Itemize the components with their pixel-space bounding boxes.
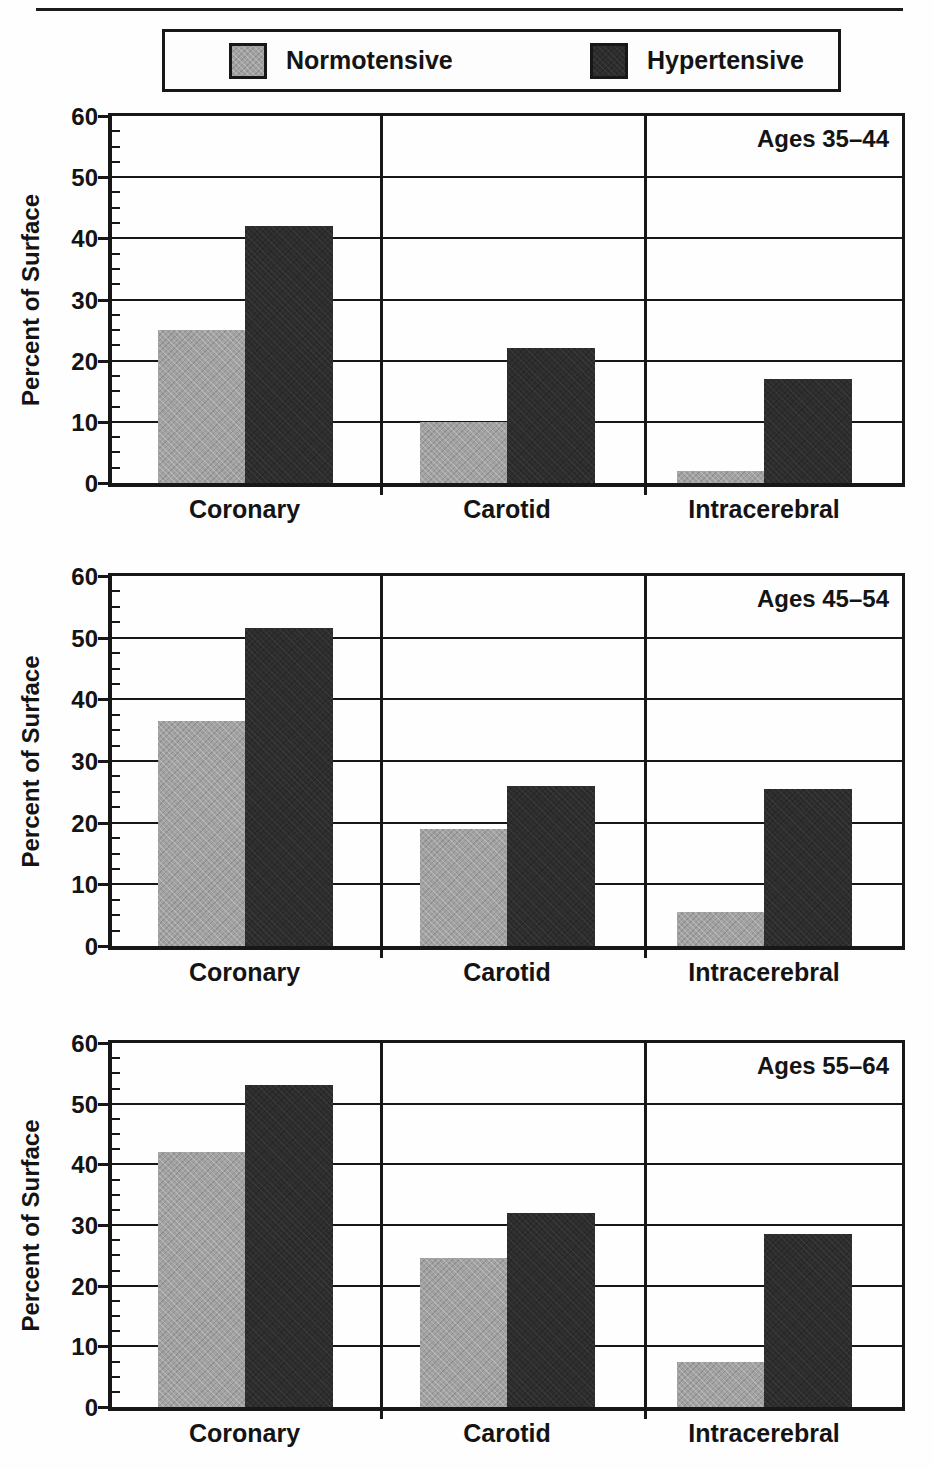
bar-normotensive-intracerebral: [677, 912, 764, 946]
bar-normotensive-carotid: [420, 1258, 507, 1407]
y-minor-tick: [112, 390, 120, 392]
y-tick-label-20: 20: [34, 811, 98, 837]
y-minor-tick: [112, 451, 120, 453]
bar-normotensive-intracerebral: [677, 1362, 764, 1408]
y-tick-label-0: 0: [34, 1395, 98, 1421]
y-minor-tick: [112, 436, 120, 438]
panel-divider-foot-2: [644, 1411, 647, 1419]
chart-ages-45-54: Percent of SurfaceAges 45–54010203040506…: [0, 573, 933, 1010]
y-tick-30: [98, 1224, 108, 1227]
y-minor-tick: [112, 268, 120, 270]
y-tick-label-60: 60: [34, 1031, 98, 1057]
y-tick-50: [98, 176, 108, 179]
y-minor-tick: [112, 683, 120, 685]
bar-hypertensive-coronary: [245, 628, 333, 946]
category-label-intracerebral: Intracerebral: [634, 1419, 894, 1448]
y-tick-label-50: 50: [34, 626, 98, 652]
y-minor-tick: [112, 130, 120, 132]
y-tick-20: [98, 822, 108, 825]
y-minor-tick: [112, 253, 120, 255]
y-tick-50: [98, 637, 108, 640]
plot-area: Ages 35–44: [108, 113, 905, 487]
legend-label-normotensive: Normotensive: [286, 46, 453, 75]
panel-divider-2: [644, 576, 647, 946]
y-minor-tick: [112, 837, 120, 839]
y-tick-label-10: 10: [34, 410, 98, 436]
hypertensive-swatch: [590, 43, 628, 79]
y-minor-tick: [112, 930, 120, 932]
bar-hypertensive-coronary: [245, 1085, 333, 1407]
y-minor-tick: [112, 161, 120, 163]
category-label-carotid: Carotid: [377, 1419, 637, 1448]
y-minor-tick: [112, 853, 120, 855]
y-minor-tick: [112, 714, 120, 716]
y-minor-tick: [112, 146, 120, 148]
y-tick-10: [98, 421, 108, 424]
y-tick-40: [98, 698, 108, 701]
normotensive-swatch: [229, 43, 267, 79]
bar-hypertensive-carotid: [507, 348, 595, 483]
y-minor-tick: [112, 1133, 120, 1135]
y-minor-tick: [112, 1300, 120, 1302]
y-minor-tick: [112, 283, 120, 285]
panel-divider-foot-2: [644, 487, 647, 495]
panel-divider-foot-2: [644, 950, 647, 958]
y-minor-tick: [112, 1330, 120, 1332]
category-label-coronary: Coronary: [115, 1419, 375, 1448]
panel-divider-foot-1: [380, 1411, 383, 1419]
category-label-intracerebral: Intracerebral: [634, 495, 894, 524]
y-minor-tick: [112, 606, 120, 608]
bar-normotensive-coronary: [158, 721, 245, 946]
y-minor-tick: [112, 1072, 120, 1074]
chart-ages-35-44: Percent of SurfaceAges 35–44010203040506…: [0, 113, 933, 547]
y-tick-0: [98, 482, 108, 485]
chart-ages-55-64: Percent of SurfaceAges 55–64010203040506…: [0, 1040, 933, 1469]
age-group-label: Ages 35–44: [757, 125, 889, 153]
y-tick-40: [98, 1163, 108, 1166]
y-minor-tick: [112, 329, 120, 331]
bar-normotensive-coronary: [158, 330, 245, 483]
gridline-30: [112, 299, 902, 301]
y-minor-tick: [112, 406, 120, 408]
category-label-intracerebral: Intracerebral: [634, 958, 894, 987]
y-minor-tick: [112, 590, 120, 592]
y-tick-label-30: 30: [34, 749, 98, 775]
y-minor-tick: [112, 1376, 120, 1378]
panel-divider-foot-1: [380, 487, 383, 495]
bar-normotensive-carotid: [420, 422, 507, 483]
y-tick-label-10: 10: [34, 872, 98, 898]
y-tick-10: [98, 883, 108, 886]
y-minor-tick: [112, 1148, 120, 1150]
y-minor-tick: [112, 344, 120, 346]
y-tick-label-30: 30: [34, 288, 98, 314]
bar-hypertensive-intracerebral: [764, 1234, 852, 1407]
y-tick-label-50: 50: [34, 1092, 98, 1118]
y-minor-tick: [112, 791, 120, 793]
legend-label-hypertensive: Hypertensive: [647, 46, 804, 75]
plot-area: Ages 55–64: [108, 1040, 905, 1411]
y-minor-tick: [112, 1118, 120, 1120]
panel-divider-1: [380, 576, 383, 946]
y-minor-tick: [112, 745, 120, 747]
y-minor-tick: [112, 1270, 120, 1272]
y-tick-label-0: 0: [34, 471, 98, 497]
y-minor-tick: [112, 1179, 120, 1181]
y-minor-tick: [112, 729, 120, 731]
bar-hypertensive-intracerebral: [764, 379, 852, 483]
y-tick-0: [98, 1406, 108, 1409]
gridline-50: [112, 176, 902, 178]
bar-normotensive-coronary: [158, 1152, 245, 1407]
bar-hypertensive-carotid: [507, 786, 595, 946]
y-tick-30: [98, 299, 108, 302]
category-label-carotid: Carotid: [377, 495, 637, 524]
gridline-50: [112, 637, 902, 639]
y-tick-30: [98, 760, 108, 763]
y-minor-tick: [112, 1194, 120, 1196]
y-tick-label-40: 40: [34, 1152, 98, 1178]
y-minor-tick: [112, 191, 120, 193]
y-minor-tick: [112, 621, 120, 623]
y-tick-label-40: 40: [34, 226, 98, 252]
legend-item-normotensive: Normotensive: [229, 32, 453, 89]
y-tick-20: [98, 360, 108, 363]
gridline-50: [112, 1103, 902, 1105]
